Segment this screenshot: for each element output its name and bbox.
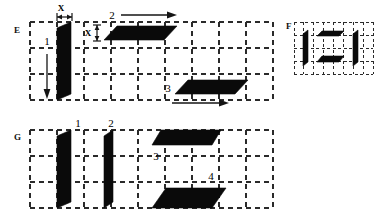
slab-F-1 bbox=[303, 30, 308, 66]
shape-label-E-1: 1 bbox=[44, 35, 50, 47]
slab-F-4 bbox=[353, 30, 358, 66]
slab-F-2 bbox=[317, 31, 344, 36]
panel-letter-F: F bbox=[286, 21, 292, 31]
slab-E-2 bbox=[104, 26, 177, 40]
shape-label-E-2: 2 bbox=[109, 9, 115, 21]
slab-E-1 bbox=[57, 22, 71, 100]
dimension-label-x-side: X bbox=[85, 28, 92, 38]
shape-label-G-4: 4 bbox=[208, 170, 214, 182]
slab-E-3 bbox=[175, 80, 248, 94]
slab-G-1 bbox=[57, 130, 71, 208]
panel-letter-G: G bbox=[14, 132, 21, 142]
shape-label-E-3: 3 bbox=[165, 82, 171, 94]
slab-G-2 bbox=[104, 130, 113, 208]
dimension-label-x-top: X bbox=[58, 3, 65, 13]
shape-label-G-3: 3 bbox=[153, 150, 159, 162]
slab-G-3 bbox=[152, 130, 221, 145]
shape-label-G-2: 2 bbox=[108, 117, 114, 129]
schematic-figure: E bbox=[0, 0, 389, 220]
shape-label-G-1: 1 bbox=[75, 117, 81, 129]
panel-letter-E: E bbox=[14, 25, 20, 35]
slab-F-3 bbox=[317, 56, 344, 62]
figure-container: E bbox=[0, 0, 389, 220]
